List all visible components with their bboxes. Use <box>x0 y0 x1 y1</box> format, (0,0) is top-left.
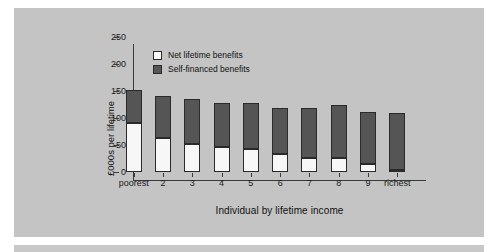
x-tick-label: 8 <box>336 178 341 188</box>
legend-item-net-lifetime-benefits: Net lifetime benefits <box>153 50 250 61</box>
x-tick-label: poorest <box>119 178 149 188</box>
bar-segment-net-benefits <box>272 154 288 172</box>
y-tick-mark <box>114 37 119 38</box>
x-tick-mark <box>222 173 223 177</box>
bar-segment-net-benefits <box>301 158 317 172</box>
figure-container: 050100150200250 poorest23456789richest I… <box>0 0 498 252</box>
legend: Net lifetime benefitsSelf-financed benef… <box>153 50 250 78</box>
x-tick-mark <box>280 173 281 177</box>
bar-segment-self-financed <box>155 96 171 138</box>
x-tick-mark <box>192 173 193 177</box>
bar-segment-self-financed <box>331 105 347 158</box>
bar-7 <box>301 108 317 172</box>
bar-2 <box>155 96 171 172</box>
x-tick-mark <box>339 173 340 177</box>
x-tick-mark <box>368 173 369 177</box>
bar-segment-net-benefits <box>331 158 347 171</box>
bar-richest <box>389 113 405 172</box>
legend-swatch <box>153 51 162 60</box>
bar-segment-net-benefits <box>389 170 405 172</box>
x-tick-label: 7 <box>307 178 312 188</box>
x-tick-label: 5 <box>248 178 253 188</box>
y-tick-mark <box>114 64 119 65</box>
legend-swatch <box>153 65 162 74</box>
bar-9 <box>360 112 376 172</box>
legend-label: Self-financed benefits <box>168 65 250 74</box>
bar-8 <box>331 105 347 172</box>
x-tick-mark <box>163 173 164 177</box>
bar-6 <box>272 108 288 172</box>
bar-segment-self-financed <box>272 108 288 154</box>
x-tick-label: 3 <box>190 178 195 188</box>
legend-item-self-financed-benefits: Self-financed benefits <box>153 64 250 75</box>
x-tick-label: 2 <box>160 178 165 188</box>
bar-3 <box>184 99 200 172</box>
bar-poorest <box>126 90 142 172</box>
bar-segment-self-financed <box>214 103 230 147</box>
bar-segment-net-benefits <box>155 138 171 172</box>
bar-4 <box>214 103 230 172</box>
x-tick-label: 6 <box>278 178 283 188</box>
chart-panel: 050100150200250 poorest23456789richest I… <box>14 8 484 237</box>
bar-segment-self-financed <box>389 113 405 170</box>
x-tick-mark <box>134 173 135 177</box>
bar-segment-self-financed <box>301 108 317 158</box>
bottom-strip <box>14 245 484 252</box>
bar-segment-net-benefits <box>243 149 259 172</box>
x-tick-mark <box>251 173 252 177</box>
legend-label: Net lifetime benefits <box>168 51 243 60</box>
y-axis-title: £000s per lifetime <box>105 69 116 209</box>
x-axis-title: Individual by lifetime income <box>133 205 426 216</box>
bar-segment-net-benefits <box>214 147 230 172</box>
bar-segment-net-benefits <box>126 123 142 172</box>
x-tick-label: richest <box>384 178 411 188</box>
bar-segment-self-financed <box>360 112 376 164</box>
bar-segment-self-financed <box>184 99 200 144</box>
x-tick-label: 9 <box>366 178 371 188</box>
bar-segment-self-financed <box>126 90 142 123</box>
bar-segment-net-benefits <box>360 164 376 172</box>
x-tick-label: 4 <box>219 178 224 188</box>
bar-segment-net-benefits <box>184 144 200 172</box>
bar-segment-self-financed <box>243 103 259 149</box>
y-axis-title-wrap: £000s per lifetime <box>86 48 100 178</box>
bar-5 <box>243 103 259 172</box>
x-tick-mark <box>309 173 310 177</box>
x-tick-mark <box>397 173 398 177</box>
